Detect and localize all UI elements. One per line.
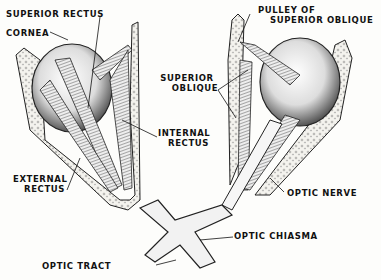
label-internal-rectus-line1: INTERNAL xyxy=(158,128,210,138)
label-external-rectus-line2: RECTUS xyxy=(24,184,65,194)
label-optic-nerve: OPTIC NERVE xyxy=(287,188,357,198)
label-superior-rectus: SUPERIOR RECTUS xyxy=(6,9,104,19)
label-superior-oblique-line2: OBLIQUE xyxy=(166,83,224,93)
label-superior-oblique-line1: SUPERIOR xyxy=(158,73,216,83)
label-pulley-line2: SUPERIOR OBLIQUE xyxy=(270,15,373,25)
label-pulley-line1: PULLEY OF xyxy=(258,5,315,15)
right-orbit xyxy=(222,14,352,210)
label-internal-rectus-line2: RECTUS xyxy=(168,138,209,148)
optic-chiasma-shape xyxy=(140,200,232,268)
label-optic-chiasma: OPTIC CHIASMA xyxy=(234,231,318,241)
label-external-rectus-line1: EXTERNAL xyxy=(13,174,67,184)
eye-muscles-diagram: SUPERIOR RECTUS CORNEA PULLEY OF SUPERIO… xyxy=(0,0,381,280)
label-optic-tract: OPTIC TRACT xyxy=(42,261,111,271)
label-cornea: CORNEA xyxy=(6,28,49,38)
